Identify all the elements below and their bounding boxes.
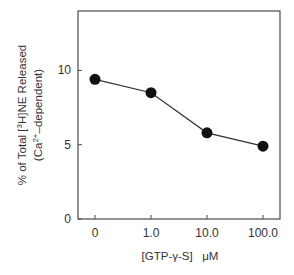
y-axis-label: % of Total [3H]NE Released xyxy=(15,45,29,185)
y-tick-label: 10 xyxy=(58,63,72,77)
series-line xyxy=(95,79,263,146)
x-axis-label: [GTP-γ-S] μM xyxy=(142,250,219,262)
x-tick-label: 1.0 xyxy=(143,226,160,240)
x-tick-label: 0 xyxy=(92,226,99,240)
data-point xyxy=(258,141,269,152)
y-axis-label-line2-group: (Ca2+–dependent) xyxy=(31,69,45,161)
x-tick-label: 100.0 xyxy=(248,226,278,240)
data-point xyxy=(146,87,157,98)
plot-frame xyxy=(78,11,280,219)
x-tick-label: 10.0 xyxy=(195,226,219,240)
data-point xyxy=(90,74,101,85)
y-axis-label-line2: (Ca2+–dependent) xyxy=(31,69,45,161)
chart: 0510 01.010.0100.0 % of Total [3H]NE Rel… xyxy=(0,0,294,275)
y-axis-label-group: % of Total [3H]NE Released xyxy=(15,45,29,185)
y-tick-label: 0 xyxy=(64,212,71,226)
y-tick-label: 5 xyxy=(64,138,71,152)
data-point xyxy=(202,127,213,138)
